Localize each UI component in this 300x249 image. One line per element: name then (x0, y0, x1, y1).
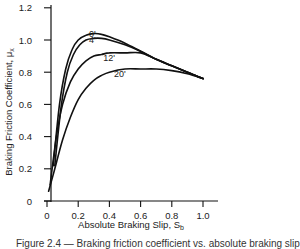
curves (49, 34, 203, 192)
y-tick-label: 0.6 (19, 99, 32, 110)
y-tick-label: 1.2 (19, 2, 32, 13)
figure-caption: Figure 2.4 — Braking friction coefficien… (16, 238, 300, 249)
curve-label: 12' (103, 53, 115, 63)
x-tick-label: 0 (44, 210, 49, 221)
y-axis-label: Braking Friction Coefficient, μx (3, 48, 15, 176)
x-axis-label: Absolute Braking Slip, Sb (78, 219, 184, 231)
y-tick-label: 0.4 (19, 131, 32, 142)
x-ticks: 00.20.40.60.81.0 (44, 201, 209, 221)
y-tick-label: 1.0 (19, 35, 32, 46)
curve-label: 4' (89, 35, 96, 45)
y-tick-label: 0.8 (19, 67, 32, 78)
curve-label: 20' (114, 69, 126, 79)
curve-20ft (49, 69, 203, 192)
y-tick-label: 0.2 (19, 163, 32, 174)
axes (44, 5, 218, 202)
y-ticks: 00.20.40.60.81.01.2 (19, 2, 51, 206)
x-tick-label: 1.0 (196, 210, 209, 221)
y-tick-label: 0 (27, 196, 32, 207)
